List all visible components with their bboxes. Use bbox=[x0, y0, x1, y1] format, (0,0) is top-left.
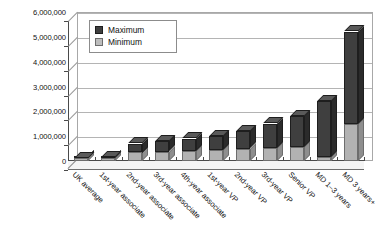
chart-3d-bar-salary-ranges: 6,000,0005,000,0004,000,0003,000,0002,00… bbox=[0, 0, 390, 239]
bar-group bbox=[317, 101, 331, 161]
bar-maximum bbox=[155, 141, 169, 151]
bar-group bbox=[209, 136, 223, 161]
bar-group bbox=[101, 157, 115, 161]
bar-maximum bbox=[128, 144, 142, 153]
bar-maximum bbox=[182, 139, 196, 151]
legend-label: Minimum bbox=[108, 37, 142, 47]
y-axis-tick-label: 4,000,000 bbox=[33, 57, 66, 66]
x-axis-tick-label: 1st-year associate bbox=[98, 170, 148, 220]
bar-group bbox=[344, 32, 358, 161]
bar-maximum bbox=[290, 116, 304, 147]
x-axis-tick bbox=[68, 157, 69, 161]
bar-group bbox=[263, 124, 277, 161]
bar-minimum bbox=[290, 147, 304, 161]
y-axis-tick bbox=[64, 96, 68, 97]
x-axis-tick-label: 3rd-year associate bbox=[152, 170, 202, 220]
y-axis-tick bbox=[64, 21, 68, 22]
chart-floor bbox=[68, 160, 364, 170]
chart-legend: MaximumMinimum bbox=[89, 20, 177, 53]
bar-maximum bbox=[263, 124, 277, 148]
bar-minimum bbox=[344, 124, 358, 161]
y-axis-tick bbox=[64, 46, 68, 47]
bar-minimum bbox=[101, 158, 115, 161]
x-axis-tick bbox=[122, 157, 123, 161]
legend-item: Maximum bbox=[95, 24, 171, 36]
bar-maximum bbox=[209, 136, 223, 150]
bar-minimum bbox=[317, 157, 331, 161]
y-axis-tick-label: 6,000,000 bbox=[33, 8, 66, 17]
x-axis-tick bbox=[283, 157, 284, 161]
bar-minimum bbox=[182, 151, 196, 161]
x-axis-tick bbox=[95, 157, 96, 161]
bar-group bbox=[236, 131, 250, 161]
bar-minimum bbox=[128, 152, 142, 161]
x-axis-tick bbox=[176, 157, 177, 161]
bar-group bbox=[74, 158, 88, 161]
bar-side-face-minimum bbox=[358, 117, 364, 161]
bar-maximum bbox=[236, 131, 250, 148]
x-axis-tick-label: 4th-year associate bbox=[179, 170, 229, 220]
x-axis-tick bbox=[364, 157, 365, 161]
x-axis-tick-label: 2nd-year associate bbox=[125, 170, 177, 222]
y-axis-tick bbox=[64, 120, 68, 121]
x-axis-tick bbox=[229, 157, 230, 161]
bar-group bbox=[290, 116, 304, 161]
bar-minimum bbox=[155, 152, 169, 161]
x-axis-labels: UK average1st-year associate2nd-year ass… bbox=[68, 170, 390, 239]
bar-side-face-maximum bbox=[331, 95, 337, 157]
y-axis-tick bbox=[64, 71, 68, 72]
legend-swatch-max bbox=[95, 26, 103, 34]
bar-minimum bbox=[263, 148, 277, 161]
bar-group bbox=[155, 141, 169, 161]
x-axis-tick bbox=[337, 157, 338, 161]
x-axis-tick bbox=[310, 157, 311, 161]
y-axis-tick-label: 1,000,000 bbox=[33, 132, 66, 141]
bar-group bbox=[128, 144, 142, 161]
bar-minimum bbox=[236, 149, 250, 161]
bar-maximum bbox=[344, 32, 358, 124]
bar-minimum bbox=[74, 158, 88, 161]
y-axis-tick-label: 3,000,000 bbox=[33, 82, 66, 91]
x-axis-tick bbox=[203, 157, 204, 161]
x-axis-tick bbox=[149, 157, 150, 161]
legend-item: Minimum bbox=[95, 36, 171, 48]
bar-maximum bbox=[317, 101, 331, 157]
y-axis-tick bbox=[64, 145, 68, 146]
bar-side-face-maximum bbox=[358, 25, 364, 123]
y-axis-labels: 6,000,0005,000,0004,000,0003,000,0002,00… bbox=[0, 0, 66, 239]
bar-group bbox=[182, 139, 196, 161]
x-axis-tick bbox=[256, 157, 257, 161]
y-axis-tick-label: 2,000,000 bbox=[33, 107, 66, 116]
bar-minimum bbox=[209, 150, 223, 161]
legend-swatch-min bbox=[95, 38, 103, 46]
y-axis-tick-label: 5,000,000 bbox=[33, 32, 66, 41]
legend-label: Maximum bbox=[108, 25, 144, 35]
